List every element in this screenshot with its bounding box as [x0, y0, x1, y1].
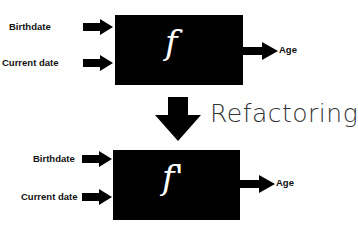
- arrow-right-icon: [82, 151, 112, 167]
- function-box: [115, 15, 243, 85]
- input-label-birthdate: Birthdate: [33, 153, 75, 164]
- input-label-birthdate: Birthdate: [9, 21, 51, 32]
- arrow-right-icon: [82, 189, 112, 205]
- function-label: f': [162, 157, 184, 197]
- input-label-current-date: Current date: [21, 191, 77, 202]
- function-label: f: [165, 22, 178, 62]
- arrow-down-icon: [155, 97, 201, 141]
- arrow-right-icon: [83, 55, 113, 71]
- output-label-age: Age: [276, 177, 294, 188]
- arrow-right-icon: [242, 42, 278, 60]
- arrow-right-icon: [83, 19, 113, 35]
- input-label-current-date: Current date: [2, 57, 58, 68]
- refactoring-label: Refactoring: [210, 99, 358, 128]
- output-label-age: Age: [279, 44, 297, 55]
- arrow-right-icon: [239, 175, 275, 193]
